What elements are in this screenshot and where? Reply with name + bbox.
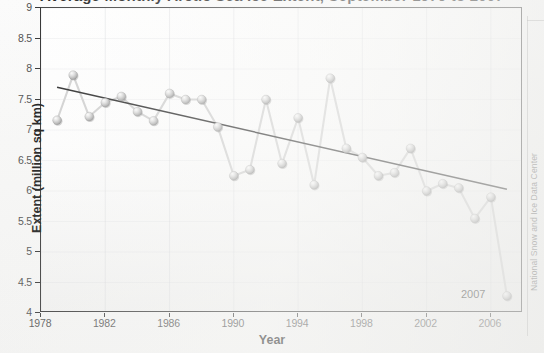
y-tick-label: 7.5: [0, 93, 32, 105]
y-tick: [35, 129, 40, 130]
data-point: [117, 92, 126, 101]
data-point: [165, 89, 174, 98]
trend-line: [57, 87, 507, 189]
chart-title: Average Monthly Arctic Sea Ice Extent, S…: [0, 0, 544, 4]
chart-svg: [41, 8, 521, 311]
y-tick-label: 7: [0, 123, 32, 135]
annotation-2007: 2007: [461, 288, 485, 300]
y-tick: [35, 251, 40, 252]
data-point: [262, 95, 271, 104]
data-point: [438, 179, 447, 188]
y-tick: [35, 99, 40, 100]
y-tick: [35, 38, 40, 39]
y-tick: [35, 190, 40, 191]
y-tick: [35, 68, 40, 69]
data-point: [213, 123, 222, 132]
y-tick-label: 9: [0, 1, 32, 13]
y-tick-label: 8.5: [0, 32, 32, 44]
data-markers: [53, 71, 513, 302]
x-tick: [104, 313, 105, 317]
data-point: [278, 159, 287, 168]
credit-text: National Snow and Ice Data Center: [529, 153, 539, 291]
plot-area: Extent (million sq km): [40, 7, 522, 312]
data-point: [390, 168, 399, 177]
data-point: [486, 193, 495, 202]
y-tick-label: 6.5: [0, 154, 32, 166]
x-tick-label: 1982: [93, 317, 116, 329]
y-tick: [35, 221, 40, 222]
x-tick: [361, 313, 362, 317]
data-point: [470, 214, 479, 223]
y-tick-label: 6: [0, 184, 32, 196]
data-point: [406, 144, 415, 153]
data-point: [342, 144, 351, 153]
y-tick: [35, 282, 40, 283]
x-tick: [297, 313, 298, 317]
data-point: [454, 184, 463, 193]
x-tick: [169, 313, 170, 317]
data-point: [149, 116, 158, 125]
x-tick: [40, 313, 41, 317]
data-point: [197, 95, 206, 104]
x-tick: [426, 313, 427, 317]
y-tick-label: 4: [0, 306, 32, 318]
data-point: [181, 95, 190, 104]
credit-divider: [527, 16, 528, 336]
x-tick-label: 1978: [29, 317, 52, 329]
data-point: [294, 113, 303, 122]
credit-divider-top: [527, 20, 544, 21]
data-point: [133, 107, 142, 116]
y-tick-label: 8: [0, 62, 32, 74]
x-tick: [490, 313, 491, 317]
x-axis-title: Year: [259, 333, 285, 347]
x-tick-label: 1998: [350, 317, 373, 329]
x-tick-label: 2002: [414, 317, 437, 329]
data-point: [85, 112, 94, 121]
data-point: [374, 171, 383, 180]
data-point: [245, 165, 254, 174]
data-point: [310, 181, 319, 190]
y-tick: [35, 160, 40, 161]
y-axis-title: Extent (million sq km): [30, 103, 44, 233]
data-point: [422, 187, 431, 196]
data-point: [53, 116, 62, 125]
y-tick-label: 5.5: [0, 215, 32, 227]
data-point: [101, 98, 110, 107]
y-tick: [35, 7, 40, 8]
x-tick: [233, 313, 234, 317]
data-point: [229, 171, 238, 180]
y-tick-label: 4.5: [0, 276, 32, 288]
data-point: [503, 292, 512, 301]
y-tick-label: 5: [0, 245, 32, 257]
x-tick-label: 1994: [286, 317, 309, 329]
data-point: [358, 153, 367, 162]
data-point: [69, 71, 78, 80]
data-point: [326, 74, 335, 83]
x-tick-label: 1986: [157, 317, 180, 329]
x-tick-label: 1990: [222, 317, 245, 329]
x-tick-label: 2006: [479, 317, 502, 329]
plot-inner: [41, 8, 521, 311]
